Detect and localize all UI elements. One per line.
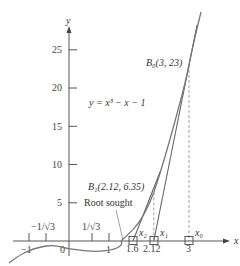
y-axis-label: y: [65, 15, 71, 26]
label-b1: B₁(2.12, 6.35): [88, 181, 145, 193]
y-ticks: [69, 50, 77, 203]
y-tick-20: 20: [52, 82, 62, 93]
x-tick-0: 0: [60, 244, 65, 255]
y-axis-arrow-icon: [67, 26, 72, 33]
x-axis-label: x: [233, 235, 239, 246]
root-annotation-pointer: [116, 210, 123, 240]
y-tick-5: 5: [57, 197, 62, 208]
y-tick-10: 10: [52, 159, 62, 170]
y-tick-15: 15: [52, 121, 62, 132]
root-annotation: Root sought: [84, 197, 133, 208]
x-label-neg-inv-sqrt3: −1/√3: [31, 221, 55, 232]
x-label-inv-sqrt3: 1/√3: [82, 221, 100, 232]
equation-label: y = x³ − x − 1: [88, 97, 146, 108]
label-x2: x₂: [138, 227, 147, 238]
y-tick-25: 25: [52, 44, 62, 55]
newton-method-plot: y x 5 10 15 20 25 −1/√3 1/√3 −1 0 1 1.6 …: [0, 0, 240, 266]
x-axis-arrow-icon: [223, 239, 230, 244]
label-b0: B₀(3, 23): [146, 57, 183, 69]
label-x1: x₁: [159, 227, 168, 238]
label-x0: x₀: [194, 227, 203, 238]
